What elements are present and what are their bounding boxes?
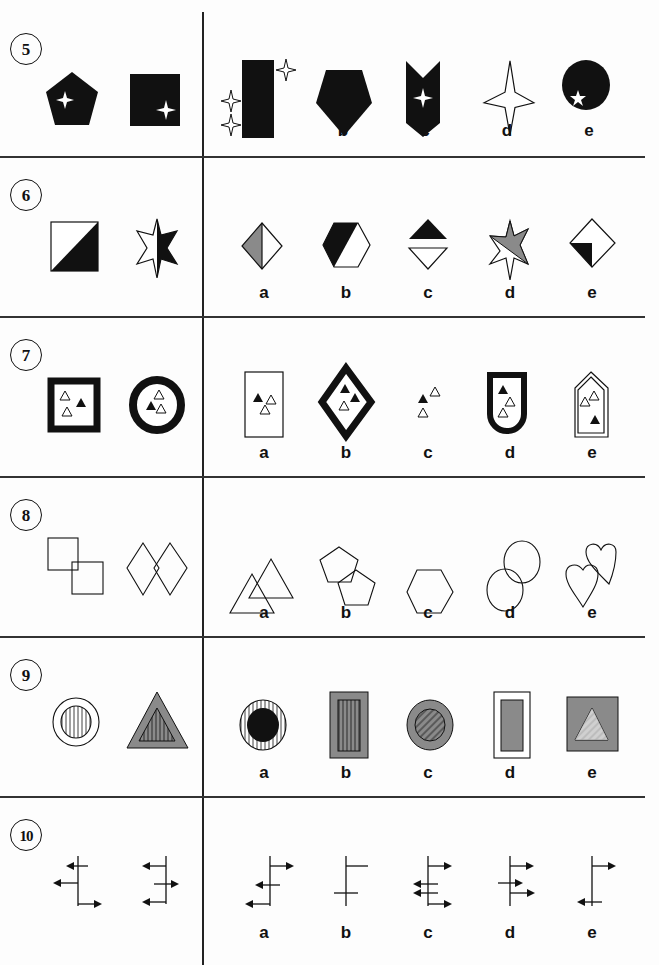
worksheet-page: 5 a b c d [0,0,659,965]
option-label-d[interactable]: d [495,923,525,943]
example-overlapping-squares [47,537,107,597]
example-split-star [135,218,181,280]
question-6: 6 a b c d [0,160,659,320]
example-framed-square [48,378,102,434]
option-b-figure [326,854,386,914]
option-label-b[interactable]: b [331,603,361,623]
question-9: 9 a b [0,640,659,800]
option-a-figure [244,371,286,439]
question-7: 7 a b [0,320,659,480]
option-b-figure [322,222,372,270]
option-e-figure [574,371,610,439]
option-label-d[interactable]: d [495,763,525,783]
option-label-d[interactable]: d [495,603,525,623]
option-label-c[interactable]: c [413,443,443,463]
option-c-figure [408,218,448,272]
question-number: 7 [10,339,42,371]
option-label-a[interactable]: a [249,443,279,463]
option-a-figure [241,222,285,274]
option-label-d[interactable]: d [495,443,525,463]
option-label-b[interactable]: b [331,283,361,303]
option-e-figure [569,218,617,270]
example-grey-triangle-striped [126,691,190,751]
question-8: 8 a b c d [0,480,659,640]
option-label-b[interactable]: b [328,121,358,141]
option-e-figure [572,854,632,914]
option-b-figure [329,691,371,759]
question-5: 5 a b c d [0,0,659,160]
option-label-b[interactable]: b [331,443,361,463]
option-c-figure [406,699,456,755]
option-a-figure [239,699,289,755]
option-label-c[interactable]: c [413,763,443,783]
option-d-figure [490,854,550,914]
option-label-e[interactable]: e [577,283,607,303]
option-label-d[interactable]: d [492,121,522,141]
option-label-e[interactable]: e [577,603,607,623]
option-label-a[interactable]: a [249,763,279,783]
example-square-star [128,72,180,128]
question-number: 9 [10,659,42,691]
option-e-figure [561,60,611,112]
option-label-d[interactable]: d [495,283,525,303]
option-c-figure [408,854,468,914]
option-label-a[interactable]: a [249,923,279,943]
example-framed-circle [128,376,188,436]
example-split-square [50,221,100,273]
option-d-figure [486,372,530,436]
question-number: 5 [10,33,42,65]
option-label-c[interactable]: c [413,603,443,623]
option-label-b[interactable]: b [331,923,361,943]
option-label-a[interactable]: a [249,603,279,623]
option-label-e[interactable]: e [574,121,604,141]
question-number: 6 [10,179,42,211]
question-number: 10 [10,819,42,851]
option-label-c[interactable]: c [413,283,443,303]
option-label-e[interactable]: e [577,443,607,463]
option-label-b[interactable]: b [331,763,361,783]
option-label-c[interactable]: c [413,923,443,943]
option-d-figure [488,220,532,282]
example-pentagon-star [42,70,102,140]
option-label-a[interactable]: a [249,283,279,303]
option-a-figure [242,854,302,914]
option-e-figure [566,696,620,754]
example-overlapping-diamonds [125,542,191,598]
option-b-figure [318,364,376,442]
option-label-e[interactable]: e [577,923,607,943]
option-d-figure [493,691,533,759]
question-10: 10 a [0,800,659,960]
option-label-c[interactable]: c [410,121,440,141]
option-label-e[interactable]: e [577,763,607,783]
example-arrow-figures [50,854,210,944]
question-number: 8 [10,499,42,531]
option-label-a[interactable]: a [246,121,276,141]
example-ring-striped-circle [52,697,102,749]
option-c-figure [416,386,446,422]
